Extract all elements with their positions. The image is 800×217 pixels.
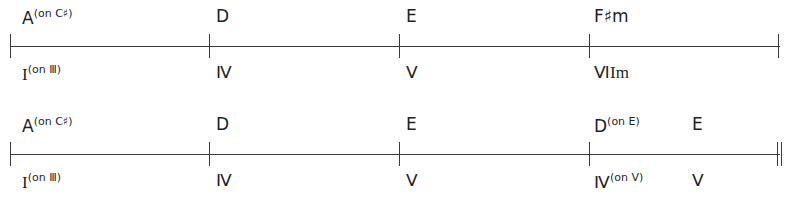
roman-numeral-degree: ⅥIm — [594, 63, 629, 82]
chord-bass-annotation: (on E) — [607, 115, 640, 128]
barline — [399, 142, 400, 166]
roman-numeral: Ⅳ — [216, 172, 232, 189]
end-barline — [777, 142, 778, 166]
chord-symbol: A(on C♯) — [22, 8, 72, 27]
end-barline — [778, 34, 779, 58]
chord-symbol: E — [406, 116, 417, 133]
chord-symbol: A(on C♯) — [22, 116, 72, 135]
roman-numeral: Ⅳ — [216, 64, 232, 81]
roman-numeral-degree: Ⅳ — [216, 63, 232, 82]
roman-numeral: Ⅳ(on Ⅴ) — [594, 172, 643, 191]
roman-numeral-bass-annotation: (on Ⅴ) — [610, 171, 643, 184]
roman-numeral-degree: Ⅴ — [406, 63, 418, 82]
roman-numeral-degree: Ⅳ — [594, 173, 610, 192]
chord-root: D — [216, 6, 229, 26]
roman-numeral: ⅥIm — [594, 64, 629, 81]
barline — [10, 142, 11, 166]
timeline-system-2: A(on C♯)I(on Ⅲ)DⅣEⅤD(on E)Ⅳ(on Ⅴ)EⅤ — [0, 108, 800, 208]
roman-numeral: I(on Ⅲ) — [22, 64, 61, 83]
chord-root: D — [216, 114, 229, 134]
timeline-rule — [10, 154, 780, 155]
roman-numeral-bass-annotation: (on Ⅲ) — [28, 171, 61, 184]
chord-bass-annotation: (on C♯) — [34, 7, 73, 20]
barline — [399, 34, 400, 58]
roman-numeral-degree: Ⅳ — [216, 171, 232, 190]
chord-symbol: D(on E) — [594, 116, 640, 135]
roman-numeral: Ⅴ — [692, 172, 704, 189]
chord-root: A — [22, 8, 34, 28]
roman-numeral-degree: Ⅴ — [406, 171, 418, 190]
barline — [589, 34, 590, 58]
chord-root: A — [22, 116, 34, 136]
chord-root: E — [692, 114, 703, 134]
roman-numeral: I(on Ⅲ) — [22, 172, 61, 191]
chord-symbol: E — [692, 116, 703, 133]
timeline-system-1: A(on C♯)I(on Ⅲ)DⅣEⅤF♯mⅥIm — [0, 0, 800, 100]
chord-bass-annotation: (on C♯) — [34, 115, 73, 128]
barline — [10, 34, 11, 58]
chord-symbol: D — [216, 8, 229, 25]
timeline-rule — [10, 46, 780, 47]
roman-numeral-degree: Ⅴ — [692, 171, 704, 190]
chord-root: E — [406, 114, 417, 134]
chord-progression-diagram: A(on C♯)I(on Ⅲ)DⅣEⅤF♯mⅥIm A(on C♯)I(on Ⅲ… — [0, 0, 800, 217]
barline — [209, 142, 210, 166]
roman-numeral-bass-annotation: (on Ⅲ) — [28, 63, 61, 76]
chord-root: E — [406, 6, 417, 26]
chord-symbol: D — [216, 116, 229, 133]
barline — [209, 34, 210, 58]
roman-numeral: Ⅴ — [406, 64, 418, 81]
chord-root: D — [594, 116, 607, 136]
chord-symbol: E — [406, 8, 417, 25]
roman-numeral: Ⅴ — [406, 172, 418, 189]
chord-symbol: F♯m — [594, 8, 629, 25]
barline — [589, 142, 590, 166]
chord-root: F♯m — [594, 6, 629, 26]
